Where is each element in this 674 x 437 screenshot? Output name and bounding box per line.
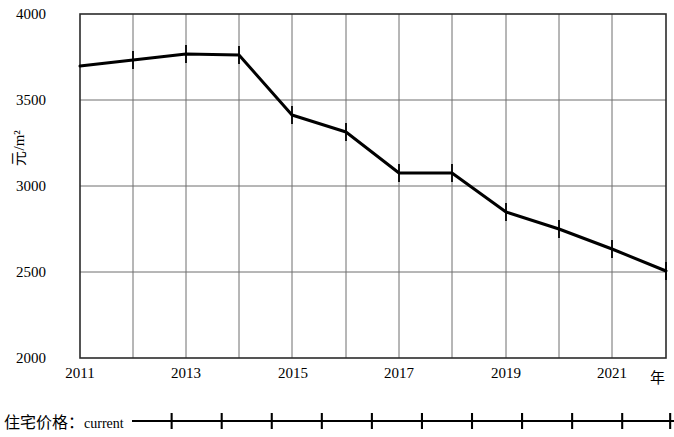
- x-tick-label-2011: 2011: [48, 366, 112, 381]
- chart-figure: 元/m² 4000 3500 3000 2500 2000: [0, 0, 674, 437]
- x-tick-label-2013: 2013: [154, 366, 218, 381]
- x-tick-label-2021: 2021: [580, 366, 644, 381]
- horizontal-gridlines: [80, 100, 666, 272]
- plot-area: [0, 0, 674, 400]
- legend-sample-svg: [132, 411, 674, 431]
- legend-label: 住宅价格：current: [0, 409, 124, 433]
- x-tick-label-2019: 2019: [474, 366, 538, 381]
- legend-series-name: current: [84, 416, 124, 431]
- x-axis-title: 年: [650, 366, 665, 387]
- legend-label-prefix: 住宅价格：: [4, 414, 84, 431]
- series-line-current: [80, 54, 666, 271]
- x-tick-label-2015: 2015: [261, 366, 325, 381]
- x-tick-label-2017: 2017: [367, 366, 431, 381]
- legend: 住宅价格：current: [0, 404, 674, 437]
- legend-sample-line: [132, 411, 674, 431]
